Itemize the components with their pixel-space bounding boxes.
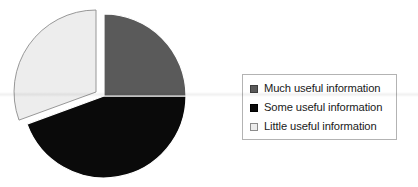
pie-chart-svg (0, 0, 230, 187)
legend-label-some-useful-information: Some useful information (264, 101, 382, 114)
legend-swatch-much-useful-information (250, 85, 258, 93)
legend-swatch-some-useful-information (250, 104, 258, 112)
legend-label-little-useful-information: Little useful information (264, 120, 377, 133)
chart-legend: Much useful information Some useful info… (242, 74, 397, 140)
legend-item-little-useful-information[interactable]: Little useful information (250, 117, 396, 136)
legend-label-much-useful-information: Much useful information (264, 82, 380, 95)
legend-swatch-little-useful-information (250, 123, 258, 131)
legend-item-some-useful-information[interactable]: Some useful information (250, 98, 396, 117)
pie-chart-screenshot: Much useful information Some useful info… (0, 0, 418, 187)
pie-chart (0, 0, 230, 187)
pie-slice-much-useful-information[interactable] (104, 14, 186, 96)
legend-item-much-useful-information[interactable]: Much useful information (250, 79, 396, 98)
